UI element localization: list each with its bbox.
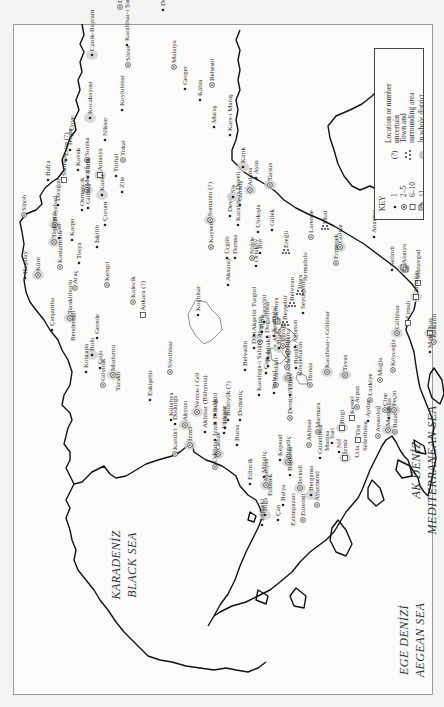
place-label: Taraklıborlu [66,279,74,314]
dot-icon [199,99,202,102]
dot-icon [104,224,107,227]
square-icon [62,178,67,183]
place-marker: Edirnek [266,473,274,496]
dot-icon [236,444,239,447]
dot-icon [104,139,107,142]
place-marker: Edincik [246,458,254,486]
place-marker: Kestel [348,396,356,420]
place-label: Akyazı [181,401,189,421]
place-label: Karahisar-ı Gölhisar [323,310,331,368]
place-label: Lazkiye [366,373,374,396]
place-marker: Kalecik [129,276,137,305]
svg-text:6–10: 6–10 [408,182,417,197]
dot-icon [242,166,245,169]
place-label: İshaklı [264,335,272,354]
place-label: Kandiri [171,429,179,450]
place-label: Sonisa [83,136,91,156]
place-marker: Kocakayası [84,81,96,123]
place-label: Lapseki [258,499,266,521]
place-marker: Muğla [376,357,384,383]
place-label: Ivrindi [296,465,304,484]
square-icon [410,205,415,210]
place-marker: Samantu (?) [204,181,216,225]
square-icon [340,426,345,431]
place-marker: Gerger [181,65,189,90]
place-marker: Aydın [364,400,372,423]
place-marker: Yarhisar [220,405,228,434]
dot-icon [51,329,54,332]
place-label: Antalya [412,270,420,293]
place-marker: Küre [32,257,44,280]
dot-icon [302,312,305,315]
place-marker: Manisa [323,430,331,452]
place-marker: Maraş [210,105,218,128]
chios-island [368,480,384,506]
place-label: Manisa [323,430,331,452]
dot-icon [229,134,232,137]
place-label: Erim (?) [62,132,70,156]
place-label: Kâhta [196,78,204,96]
dot-icon [121,191,124,194]
place-marker: Behesni [208,58,216,87]
svg-text:EGE DENİZİ: EGE DENİZİ [397,605,411,676]
place-label: Ankara (?) [139,280,147,311]
place-marker: Kandiri [171,429,179,457]
place-label: Canik-Bayram [88,9,96,51]
place-label: Alanya [400,243,408,264]
place-label: Dodurga [171,395,179,420]
place-marker: Tavas [339,354,351,380]
place-label: Kars-ı Maraş [226,94,234,131]
place-marker: Bendereğli [69,310,77,341]
place-label: Kavak [74,147,82,166]
svg-text:BLACK SEA: BLACK SEA [125,532,139,598]
place-label: Bafra [44,160,52,176]
aegean-label: EGE DENİZİ AEGEAN SEA [397,603,427,679]
place-marker: Darende [159,0,167,11]
place-label: Yenice-i Göl [193,372,201,408]
place-label: Samantu (?) [206,181,214,216]
place-marker: Koyluhisar [118,74,126,111]
dot-icon [197,314,200,317]
place-marker: Kavak [74,147,82,171]
dot-icon [282,504,285,507]
svg-text:AEGEAN SEA: AEGEAN SEA [413,603,427,679]
place-label: Zile [118,177,126,188]
mediterranean-label: AK DENİZ MEDITERRANEAN SEA [409,405,439,535]
place-label: Seydişehir [299,279,307,309]
place-label: Köyceğiz [389,339,397,366]
square-icon [356,438,361,443]
place-marker: Çan [274,504,282,521]
dot-icon [227,284,230,287]
place-marker: Elmalı [404,300,412,325]
dot-icon [223,432,226,435]
place-marker: Karahisar-ı Şarki [123,0,131,46]
place-marker: Ivrindi [294,465,306,493]
place-label: Urla [353,445,361,458]
place-label: Balat [391,413,399,428]
place-label: Turhal [112,154,120,172]
place-label: Gülek [268,208,276,226]
place-label: Belviran [288,276,296,301]
dot-icon [96,246,99,249]
place-marker: Karpu [68,218,76,241]
place-marker: Çorum [101,201,109,226]
grey-blob-icon [419,151,423,159]
place-label: Üsküdar [211,439,219,463]
place-label: Ereğli [282,231,290,248]
place-label: Edincik [246,458,254,480]
place-marker: Kayseri [207,221,215,249]
place-marker: Lazkiye [366,373,374,402]
place-marker: Samsun [60,153,68,182]
dot-icon [78,262,81,265]
place-marker: Larende [307,210,315,239]
place-marker: Zile [118,177,126,194]
place-label: Aydın [364,400,372,417]
place-label: Muğla [376,357,384,376]
place-label: Eskişehir [146,369,154,396]
place-label: Gerger [181,65,189,85]
place-label: Larende [307,210,315,233]
place-label: Malatya [170,39,178,63]
place-label: Edirnek [266,473,274,496]
place-label: Tarsus [266,163,274,181]
dot-icon [257,231,260,234]
